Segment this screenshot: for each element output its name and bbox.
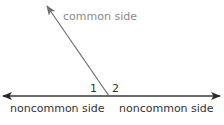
angle-2-label: 2 [112, 82, 119, 95]
noncommon-side-right-label: noncommon side [119, 102, 214, 115]
common-side-label: common side [63, 10, 137, 23]
noncommon-side-left-label: noncommon side [10, 102, 105, 115]
linear-pair-diagram: common side 1 2 noncommon side noncommon… [0, 0, 224, 125]
angle-1-label: 1 [90, 82, 97, 95]
